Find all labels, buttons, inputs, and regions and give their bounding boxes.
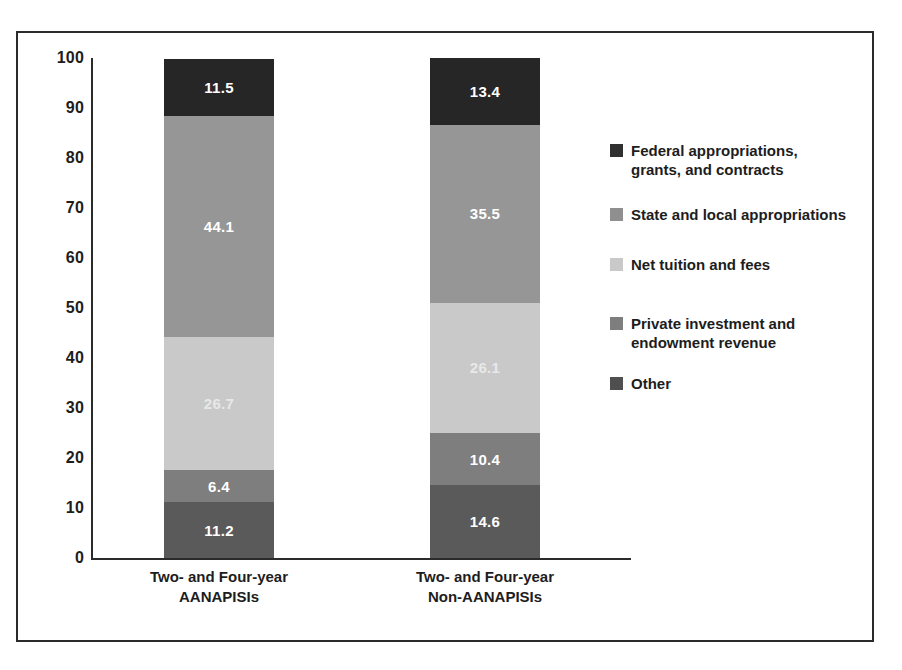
legend-swatch-icon: [610, 144, 623, 157]
stacked-bar[interactable]: 13.435.526.110.414.6: [430, 58, 540, 558]
y-axis-tick-100: 100: [38, 49, 84, 67]
y-axis-tick-40: 40: [38, 349, 84, 367]
bar-segment-value-label: 11.5: [204, 80, 234, 95]
y-axis-line: [91, 58, 93, 559]
y-axis-tick-70: 70: [38, 199, 84, 217]
bar-segment[interactable]: 44.1: [164, 116, 274, 337]
bar-segment[interactable]: 26.1: [430, 303, 540, 434]
y-axis-tick-labels: 1009080706050403020100: [18, 33, 84, 644]
x-axis-label-aanapisis: Two- and Four-year AANAPISIs: [114, 567, 324, 608]
legend-item[interactable]: Other: [610, 374, 860, 393]
bar-segment-value-label: 14.6: [470, 514, 500, 529]
bar-segment[interactable]: 35.5: [430, 125, 540, 303]
y-axis-tick-80: 80: [38, 149, 84, 167]
bar-segment[interactable]: 26.7: [164, 337, 274, 471]
legend-item-label: Federal appropriations, grants, and cont…: [631, 141, 798, 179]
bar-segment[interactable]: 6.4: [164, 470, 274, 502]
y-axis-tick-30: 30: [38, 399, 84, 417]
legend-item[interactable]: Private investment and endowment revenue: [610, 314, 860, 352]
legend-swatch-icon: [610, 258, 623, 271]
y-axis-tick-10: 10: [38, 499, 84, 517]
bar-segment-value-label: 35.5: [470, 206, 500, 221]
bar-segment-value-label: 13.4: [470, 84, 500, 99]
bar-segment[interactable]: 10.4: [430, 433, 540, 485]
bar-segment[interactable]: 13.4: [430, 58, 540, 125]
bar-segment-value-label: 44.1: [204, 219, 234, 234]
legend-swatch-icon: [610, 317, 623, 330]
bar-segment[interactable]: 14.6: [430, 485, 540, 558]
legend-item[interactable]: Federal appropriations, grants, and cont…: [610, 141, 860, 179]
bar-segment[interactable]: 11.2: [164, 502, 274, 558]
bar-segment[interactable]: 11.5: [164, 59, 274, 117]
bar-group-non-aanapisis: 13.435.526.110.414.6: [430, 58, 540, 558]
legend-item[interactable]: State and local appropriations: [610, 205, 860, 224]
legend-item-label: Net tuition and fees: [631, 255, 770, 274]
chart-frame: 1009080706050403020100 11.544.126.76.411…: [16, 31, 874, 642]
x-axis-line: [91, 558, 631, 560]
y-axis-tick-20: 20: [38, 449, 84, 467]
legend-swatch-icon: [610, 377, 623, 390]
y-axis-tick-60: 60: [38, 249, 84, 267]
y-axis-tick-50: 50: [38, 299, 84, 317]
y-axis-tick-0: 0: [38, 549, 84, 567]
bar-segment-value-label: 26.7: [204, 396, 234, 411]
bar-segment-value-label: 10.4: [470, 452, 500, 467]
bar-segment-value-label: 11.2: [204, 523, 234, 538]
stacked-bar[interactable]: 11.544.126.76.411.2: [164, 59, 274, 559]
bar-segment-value-label: 6.4: [208, 479, 230, 494]
bar-group-aanapisis: 11.544.126.76.411.2: [164, 59, 274, 559]
bar-segment-value-label: 26.1: [470, 360, 500, 375]
legend-swatch-icon: [610, 208, 623, 221]
legend: Federal appropriations, grants, and cont…: [610, 141, 860, 393]
plot-area: 1009080706050403020100 11.544.126.76.411…: [18, 33, 876, 644]
legend-item-label: Other: [631, 374, 671, 393]
y-axis-tick-90: 90: [38, 99, 84, 117]
legend-item-label: Private investment and endowment revenue: [631, 314, 795, 352]
legend-item[interactable]: Net tuition and fees: [610, 255, 860, 274]
x-axis-label-non-aanapisis: Two- and Four-year Non-AANAPISIs: [380, 567, 590, 608]
legend-item-label: State and local appropriations: [631, 205, 846, 224]
